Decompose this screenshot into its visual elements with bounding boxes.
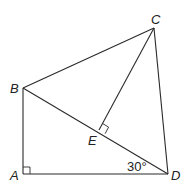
point-label-a: A (9, 168, 19, 183)
angle-label-d: 30° (127, 159, 147, 174)
segment-cd (154, 28, 168, 174)
point-label-b: B (10, 81, 19, 96)
right-angle-mark-e (103, 124, 109, 134)
segment-ce (99, 28, 154, 130)
point-label-e: E (88, 133, 97, 148)
right-angle-mark-a (23, 167, 30, 174)
segment-bc (23, 28, 154, 88)
geometry-diagram: A B C D E 30° (0, 0, 185, 190)
point-label-d: D (171, 168, 180, 183)
point-label-c: C (151, 12, 161, 27)
